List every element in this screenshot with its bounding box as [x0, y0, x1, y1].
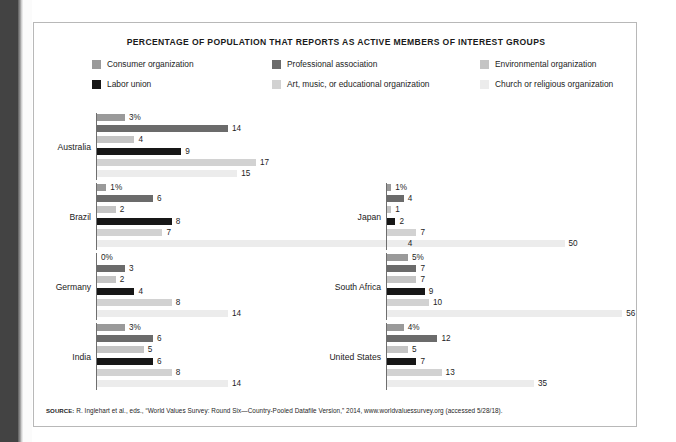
legend-label: Consumer organization: [107, 59, 194, 69]
country-panel: Japan1%41274: [386, 183, 626, 250]
bar-row[interactable]: 4: [387, 238, 425, 248]
bar-row[interactable]: 4: [97, 135, 269, 145]
bar-value-label: 3%: [129, 323, 141, 332]
bar: [387, 310, 622, 317]
bar-row[interactable]: 8: [97, 367, 241, 377]
bar: [387, 229, 416, 236]
bar-row[interactable]: 9: [97, 146, 269, 156]
bar-row[interactable]: 7: [387, 275, 635, 285]
bar-value-label: 14: [232, 124, 241, 133]
page-gutter-edge: [23, 0, 32, 442]
bar-row[interactable]: 15: [97, 168, 269, 178]
bar-value-label: 8: [176, 298, 181, 307]
bar-row[interactable]: 1: [387, 205, 425, 215]
country-panel: Germany0%324814: [96, 253, 336, 320]
bar-value-label: 14: [232, 309, 241, 318]
bar-row[interactable]: 4: [97, 286, 241, 296]
bar-row[interactable]: 17: [97, 157, 269, 167]
bar-value-label: 5%: [412, 253, 424, 262]
bar-value-label: 4: [408, 239, 413, 248]
bar-value-label: 4: [408, 194, 413, 203]
bar: [97, 358, 153, 365]
bar-row[interactable]: 5: [387, 345, 547, 355]
bar: [387, 369, 442, 376]
legend-item[interactable]: Consumer organization: [92, 59, 194, 69]
bar-value-label: 3%: [129, 113, 141, 122]
bar: [97, 288, 134, 295]
legend-item[interactable]: Professional association: [272, 59, 377, 69]
bar: [97, 206, 116, 213]
bar: [387, 324, 404, 331]
legend-item[interactable]: Church or religious organization: [480, 79, 613, 89]
country-label: Japan: [303, 212, 381, 222]
bar-row[interactable]: 9: [387, 286, 635, 296]
bar: [387, 240, 404, 247]
bar-row[interactable]: 1%: [387, 183, 425, 193]
legend-item[interactable]: Art, music, or educational organization: [272, 79, 429, 89]
country-label: Germany: [33, 282, 91, 292]
bar-row[interactable]: 7: [387, 356, 547, 366]
bar-value-label: 15: [241, 169, 250, 178]
bar: [97, 276, 116, 283]
bar-row[interactable]: 14: [97, 308, 241, 318]
bar: [387, 195, 404, 202]
bar-value-label: 2: [120, 275, 125, 284]
bar: [97, 136, 134, 143]
bar-row[interactable]: 7: [387, 264, 635, 274]
bar-value-label: 3: [129, 264, 134, 273]
legend-item[interactable]: Environmental organization: [480, 59, 597, 69]
bar-value-label: 6: [157, 334, 162, 343]
bar: [97, 148, 181, 155]
chart-legend: Consumer organizationProfessional associ…: [34, 59, 638, 101]
legend-item[interactable]: Labor union: [92, 79, 151, 89]
bar-value-label: 14: [232, 379, 241, 388]
legend-label: Professional association: [287, 59, 377, 69]
bar-row[interactable]: 2: [387, 216, 425, 226]
bar-value-label: 9: [429, 287, 434, 296]
bar-value-label: 7: [420, 228, 425, 237]
bar-row[interactable]: 6: [97, 334, 241, 344]
country-panel: Brazil1%628750: [96, 183, 336, 250]
bar: [387, 288, 425, 295]
bar-group: 1%41274: [387, 183, 425, 250]
bar: [97, 218, 172, 225]
bar-group: 4%12571335: [387, 323, 547, 390]
bar-group: 3%656814: [97, 323, 241, 390]
legend-label: Environmental organization: [495, 59, 597, 69]
bar-value-label: 7: [420, 264, 425, 273]
bar-value-label: 6: [157, 357, 162, 366]
bar-row[interactable]: 3%: [97, 323, 241, 333]
figure-container: PERCENTAGE OF POPULATION THAT REPORTS AS…: [33, 22, 637, 427]
bar-row[interactable]: 10: [387, 297, 635, 307]
bar-value-label: 13: [446, 368, 455, 377]
legend-swatch-icon: [480, 80, 489, 89]
bar: [97, 335, 153, 342]
bar-row[interactable]: 2: [97, 275, 241, 285]
bar: [387, 358, 416, 365]
country-panel: Australia3%14491715: [96, 113, 336, 180]
bar: [97, 265, 125, 272]
bar-row[interactable]: 7: [387, 227, 425, 237]
bar-row[interactable]: 35: [387, 378, 547, 388]
bar-row[interactable]: 0%: [97, 253, 241, 263]
source-note: SOURCE: R. Inglehart et al., eds., “Worl…: [46, 407, 626, 414]
bar-row[interactable]: 14: [97, 124, 269, 134]
bar: [97, 369, 172, 376]
bar-row[interactable]: 5%: [387, 253, 635, 263]
chart-title: PERCENTAGE OF POPULATION THAT REPORTS AS…: [34, 37, 638, 47]
bar-row[interactable]: 4%: [387, 323, 547, 333]
bar-row[interactable]: 3%: [97, 113, 269, 123]
bar-row[interactable]: 12: [387, 334, 547, 344]
bar-row[interactable]: 6: [97, 356, 241, 366]
bar-row[interactable]: 4: [387, 194, 425, 204]
bar-value-label: 4%: [408, 323, 420, 332]
bar-row[interactable]: 13: [387, 367, 547, 377]
bar-value-label: 5: [148, 345, 153, 354]
bar-row[interactable]: 3: [97, 264, 241, 274]
bar-row[interactable]: 14: [97, 378, 241, 388]
bar-row[interactable]: 5: [97, 345, 241, 355]
bar-value-label: 7: [420, 275, 425, 284]
bar-value-label: 35: [538, 379, 547, 388]
bar-row[interactable]: 8: [97, 297, 241, 307]
bar-row[interactable]: 56: [387, 308, 635, 318]
